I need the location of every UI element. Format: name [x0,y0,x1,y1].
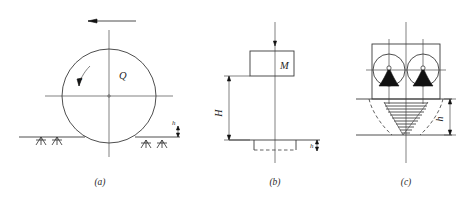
ground-hatching-left [36,137,62,145]
caption-c: (c) [401,177,412,188]
depth-dimension-c [444,99,456,135]
panel-c: h (c) [356,22,456,188]
left-hub [387,66,391,70]
label-radius-r: r [78,75,82,86]
label-mass-m: M [279,60,290,71]
engineering-figure: r Q h (a) M H [0,0,476,204]
depth-dimension-b [315,140,318,151]
label-depth-h-b: h [310,142,314,150]
height-dimension [224,76,250,140]
panel-b: M H [213,22,320,188]
label-load-q: Q [119,70,127,81]
label-depth-h-a: h [172,119,176,127]
depth-dimension-a [176,126,179,137]
right-hub [421,66,425,70]
pressure-bulb-left [369,99,392,135]
shaft-load-arrow [273,41,276,46]
travel-direction-arrow [88,19,136,23]
figure-canvas: r Q h (a) M H [0,0,476,204]
label-height-h: H [213,109,224,118]
wheel-center-mark [108,95,110,97]
caption-a: (a) [94,177,105,188]
panel-a: r Q h (a) [19,19,180,188]
caption-b: (b) [269,177,280,188]
label-depth-h-c: h [434,117,445,122]
ground-hatching-right [141,140,167,148]
